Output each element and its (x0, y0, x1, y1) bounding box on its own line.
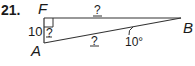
unknown-FA: ? (46, 27, 53, 39)
vertex-A: A (31, 43, 41, 58)
vertex-F: F (38, 1, 47, 16)
side-FA-length: 10 (28, 25, 42, 38)
unknown-FB: ? (94, 4, 101, 16)
vertex-B: B (183, 20, 193, 35)
side-AB (44, 18, 181, 43)
problem-number: 21. (1, 3, 20, 17)
angle-arc (129, 27, 133, 35)
angle-B-label: 10° (125, 36, 143, 48)
unknown-AB: ? (91, 35, 98, 47)
triangle-problem: 21. F A B 10 ? ? ? 10° (0, 0, 195, 66)
